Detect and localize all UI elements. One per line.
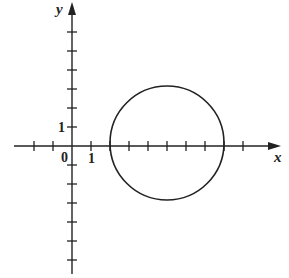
diagram-svg: x y 0 1 1 bbox=[0, 0, 289, 278]
origin-label: 0 bbox=[61, 150, 68, 165]
x-axis-label: x bbox=[273, 149, 282, 165]
coordinate-diagram: x y 0 1 1 bbox=[0, 0, 289, 278]
y-axis-arrow-icon bbox=[68, 2, 76, 15]
y-unit-label: 1 bbox=[58, 120, 65, 135]
y-axis-label: y bbox=[54, 1, 63, 17]
x-unit-label: 1 bbox=[88, 151, 95, 166]
